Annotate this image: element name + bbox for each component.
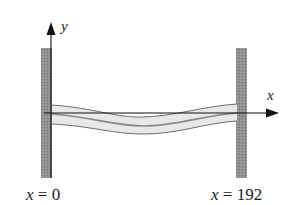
x-axis-label: x [267, 88, 274, 103]
left-wall-position-label: x = 0 [26, 186, 60, 203]
diagram-canvas [0, 0, 299, 205]
right-wall-position-value: = 192 [223, 185, 262, 204]
right-wall-position-label: x = 192 [211, 186, 262, 203]
right-wall-position-var: x [211, 185, 219, 204]
beam-diagram: y x x = 0 x = 192 [0, 0, 299, 205]
left-wall-position-value: = 0 [38, 185, 60, 204]
y-axis-label: y [61, 19, 68, 34]
x-axis-arrowhead-icon [266, 109, 279, 118]
y-axis-arrowhead-icon [47, 22, 56, 35]
left-wall-position-var: x [26, 185, 34, 204]
